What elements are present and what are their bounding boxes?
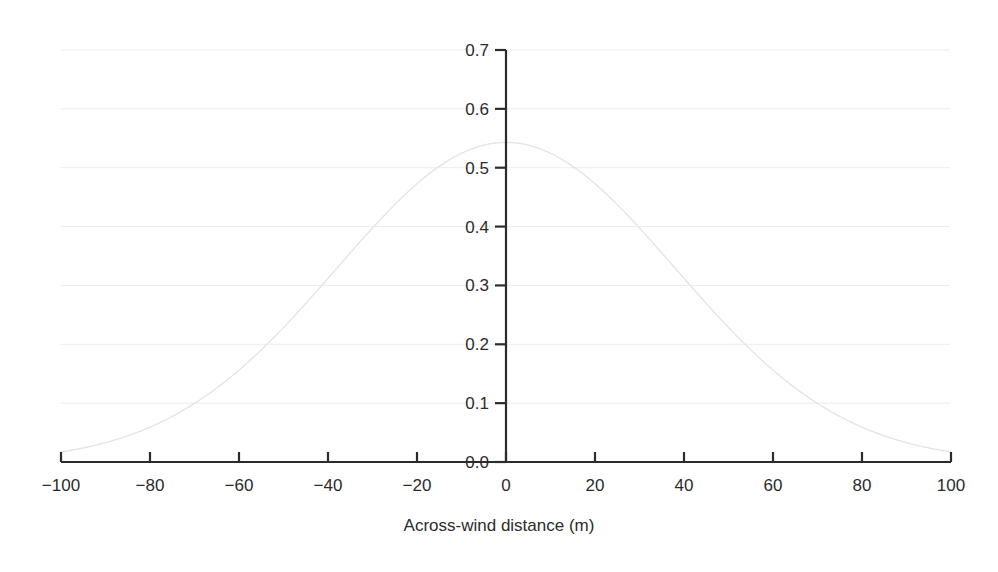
y-tick-label-1: 0.1 (465, 394, 489, 413)
x-tick-label-2: −60 (225, 476, 254, 495)
x-tick-label-7: 40 (675, 476, 694, 495)
y-tick-label-6: 0.6 (465, 100, 489, 119)
y-tick-label-7: 0.7 (465, 41, 489, 60)
y-tick-label-5: 0.5 (465, 159, 489, 178)
chart-figure: −100−80−60−40−20020406080100 0.00.10.20.… (0, 0, 998, 572)
y-tick-label-group: 0.00.10.20.30.40.50.60.7 (465, 41, 489, 472)
x-tick-label-group: −100−80−60−40−20020406080100 (42, 476, 965, 495)
x-tick-label-4: −20 (403, 476, 432, 495)
x-tick-label-1: −80 (136, 476, 165, 495)
y-tick-label-4: 0.4 (465, 218, 489, 237)
x-axis-title: Across-wind distance (m) (404, 516, 595, 535)
x-tick-label-6: 20 (586, 476, 605, 495)
x-tick-label-5: 0 (501, 476, 510, 495)
gaussian-plot: −100−80−60−40−20020406080100 0.00.10.20.… (0, 0, 998, 572)
y-tick-group (495, 50, 506, 462)
y-tick-label-0: 0.0 (465, 453, 489, 472)
x-tick-group (61, 452, 951, 462)
x-tick-label-8: 60 (764, 476, 783, 495)
axis-spine-group (61, 50, 951, 462)
x-tick-label-9: 80 (853, 476, 872, 495)
y-tick-label-3: 0.3 (465, 276, 489, 295)
x-tick-label-10: 100 (937, 476, 965, 495)
x-tick-label-0: −100 (42, 476, 80, 495)
y-tick-label-2: 0.2 (465, 335, 489, 354)
x-tick-label-3: −40 (314, 476, 343, 495)
